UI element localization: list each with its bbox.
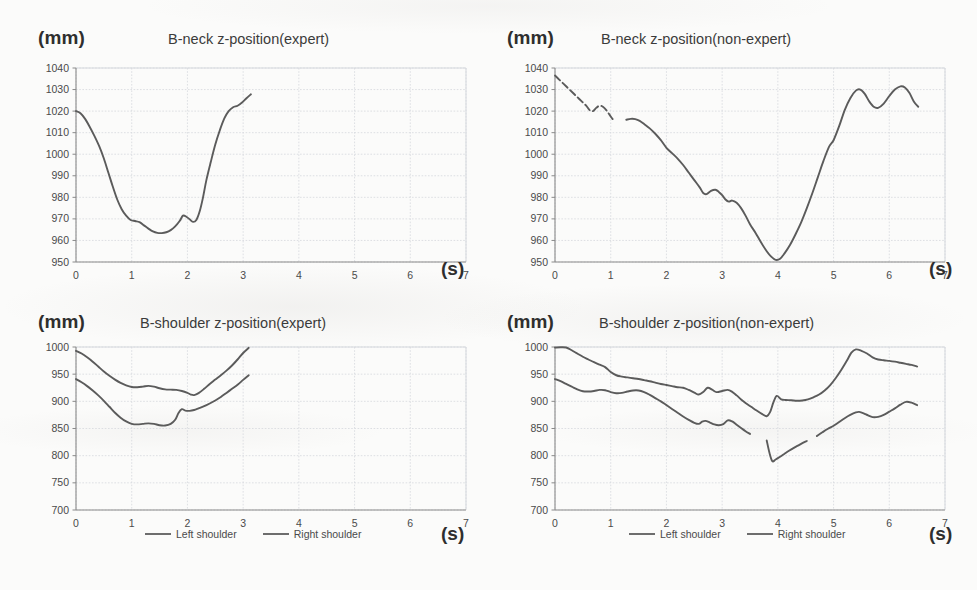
legend-item-left-shoulder[interactable]: Left shoulder — [629, 528, 721, 540]
y-tick-label: 700 — [530, 504, 548, 516]
series-line — [76, 348, 249, 395]
series-line — [817, 402, 917, 436]
x-tick-label: 0 — [73, 517, 79, 529]
x-tick-label: 0 — [73, 269, 79, 281]
legend-swatch-icon — [747, 533, 773, 535]
x-tick-label: 4 — [775, 269, 781, 281]
y-tick-label: 1040 — [46, 62, 70, 74]
series-line — [76, 375, 249, 425]
y-tick-label: 750 — [51, 476, 69, 488]
y-tick-label: 900 — [530, 395, 548, 407]
y-tick-label: 960 — [530, 234, 548, 246]
y-tick-label: 960 — [51, 234, 69, 246]
y-tick-label: 990 — [530, 169, 548, 181]
y-tick-label: 1000 — [525, 341, 549, 353]
y-tick-label: 950 — [51, 256, 69, 268]
x-tick-label: 4 — [296, 269, 302, 281]
legend-swatch-icon — [629, 533, 655, 535]
y-tick-label: 750 — [530, 476, 548, 488]
x-tick-label: 2 — [664, 269, 670, 281]
x-tick-label: 3 — [240, 269, 246, 281]
figure-grid: (mm) B-neck z-position(expert) 950960970… — [0, 0, 977, 590]
y-tick-label: 980 — [51, 191, 69, 203]
x-tick-label: 6 — [407, 517, 413, 529]
y-tick-label: 1000 — [46, 148, 70, 160]
legend-b-shoulder-non-expert: Left shoulder Right shoulder — [629, 528, 845, 540]
panel-b-shoulder-non-expert: (mm) B-shoulder z-position(non-expert) 7… — [489, 300, 977, 590]
x-tick-label: 5 — [831, 269, 837, 281]
series-line — [555, 347, 917, 416]
y-tick-label: 1030 — [46, 83, 70, 95]
y-tick-label: 1020 — [46, 105, 70, 117]
y-tick-label: 950 — [530, 256, 548, 268]
x-tick-label: 1 — [129, 517, 135, 529]
x-tick-label: 3 — [719, 269, 725, 281]
chart-b-neck-expert[interactable]: 9509609709809901000101010201030104001234… — [0, 0, 489, 300]
series-line — [626, 86, 918, 260]
panel-b-shoulder-expert: (mm) B-shoulder z-position(expert) 70075… — [0, 300, 489, 590]
y-tick-label: 970 — [530, 212, 548, 224]
x-tick-label: 0 — [552, 517, 558, 529]
legend-b-shoulder-expert: Left shoulder Right shoulder — [145, 528, 361, 540]
y-tick-label: 700 — [51, 504, 69, 516]
y-tick-label: 1040 — [525, 62, 549, 74]
y-tick-label: 980 — [530, 191, 548, 203]
chart-b-shoulder-non-expert[interactable]: 700750800850900950100001234567 — [489, 300, 977, 590]
y-tick-label: 850 — [530, 422, 548, 434]
legend-label: Right shoulder — [778, 528, 846, 540]
y-tick-label: 1010 — [46, 126, 70, 138]
x-tick-label: 1 — [608, 269, 614, 281]
chart-b-shoulder-expert[interactable]: 700750800850900950100001234567 — [0, 300, 489, 590]
y-tick-label: 950 — [51, 368, 69, 380]
x-tick-label: 6 — [407, 269, 413, 281]
x-tick-label: 1 — [129, 269, 135, 281]
y-tick-label: 1020 — [525, 105, 549, 117]
chart-b-neck-non-expert[interactable]: 9509609709809901000101010201030104001234… — [489, 0, 977, 300]
y-tick-label: 1030 — [525, 83, 549, 95]
legend-item-right-shoulder[interactable]: Right shoulder — [747, 528, 846, 540]
panel-b-neck-non-expert: (mm) B-neck z-position(non-expert) 95096… — [489, 0, 977, 300]
legend-item-left-shoulder[interactable]: Left shoulder — [145, 528, 237, 540]
y-tick-label: 1000 — [525, 148, 549, 160]
x-tick-label: 5 — [352, 269, 358, 281]
x-unit-label: (s) — [441, 258, 464, 280]
y-tick-label: 900 — [51, 395, 69, 407]
y-tick-label: 950 — [530, 368, 548, 380]
series-line — [555, 379, 750, 434]
legend-swatch-icon — [263, 533, 289, 535]
legend-item-right-shoulder[interactable]: Right shoulder — [263, 528, 362, 540]
y-tick-label: 990 — [51, 169, 69, 181]
y-tick-label: 850 — [51, 422, 69, 434]
y-tick-label: 800 — [51, 449, 69, 461]
y-tick-label: 1010 — [525, 126, 549, 138]
x-tick-label: 6 — [886, 517, 892, 529]
x-tick-label: 6 — [886, 269, 892, 281]
x-unit-label: (s) — [929, 258, 952, 280]
legend-label: Left shoulder — [176, 528, 237, 540]
series-line — [767, 440, 807, 461]
x-unit-label: (s) — [441, 523, 464, 545]
x-tick-label: 0 — [552, 269, 558, 281]
y-tick-label: 970 — [51, 212, 69, 224]
legend-swatch-icon — [145, 533, 171, 535]
legend-label: Left shoulder — [660, 528, 721, 540]
x-tick-label: 1 — [608, 517, 614, 529]
panel-b-neck-expert: (mm) B-neck z-position(expert) 950960970… — [0, 0, 489, 300]
series-line — [555, 76, 614, 121]
legend-label: Right shoulder — [294, 528, 362, 540]
y-tick-label: 800 — [530, 449, 548, 461]
x-tick-label: 2 — [185, 269, 191, 281]
x-unit-label: (s) — [929, 523, 952, 545]
series-line — [76, 94, 251, 233]
y-tick-label: 1000 — [46, 341, 70, 353]
